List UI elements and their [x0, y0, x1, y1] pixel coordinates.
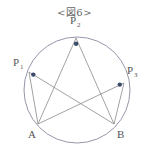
label-p1: P [13, 56, 19, 68]
chords [29, 38, 124, 124]
circle [24, 37, 130, 143]
chord-p1-a [29, 72, 38, 124]
label-p2: P [70, 14, 76, 26]
label-a: A [28, 128, 36, 140]
angle-mark-p3 [118, 82, 122, 86]
point-labels: P1P2P3AB [13, 14, 138, 140]
label-b: B [117, 128, 124, 140]
inscribed-angle-diagram: P1P2P3AB [0, 0, 149, 156]
label-p2-subscript: 2 [77, 21, 81, 29]
label-p1-subscript: 1 [20, 63, 24, 71]
label-p3: P [127, 64, 133, 76]
chord-p2-b [76, 38, 114, 124]
angle-mark-p2 [74, 42, 78, 46]
angle-mark-p1 [31, 72, 35, 76]
label-p3-subscript: 3 [134, 71, 138, 79]
